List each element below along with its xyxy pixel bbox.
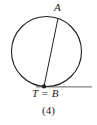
- figure-caption: (4): [0, 105, 97, 116]
- point-a-label: A: [54, 2, 61, 13]
- point-t-equals-b-label: T = B: [32, 88, 59, 99]
- chord-a-to-t: [44, 18, 58, 86]
- geometry-figure: A T = B (4): [0, 0, 97, 125]
